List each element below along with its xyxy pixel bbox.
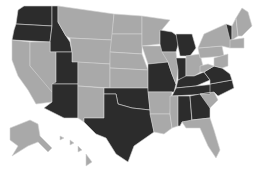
state-hi: [60, 136, 92, 166]
state-or: [12, 24, 52, 42]
us-choropleth-map: [0, 0, 257, 169]
state-ks: [110, 68, 148, 88]
state-mt: [58, 6, 114, 40]
state-nm: [78, 86, 104, 122]
state-mi: [176, 34, 196, 56]
state-fl: [182, 118, 220, 158]
state-wa: [16, 6, 52, 26]
us-map-svg: [0, 0, 257, 169]
state-co: [78, 62, 110, 88]
state-ma_ct_ri: [230, 38, 244, 48]
state-ar: [148, 92, 172, 114]
state-wy: [70, 38, 112, 64]
state-ak: [10, 120, 52, 156]
state-ne: [110, 52, 148, 70]
state-ms: [170, 96, 178, 128]
state-nd: [112, 14, 142, 34]
state-sd: [110, 34, 142, 54]
state-me: [236, 8, 252, 36]
